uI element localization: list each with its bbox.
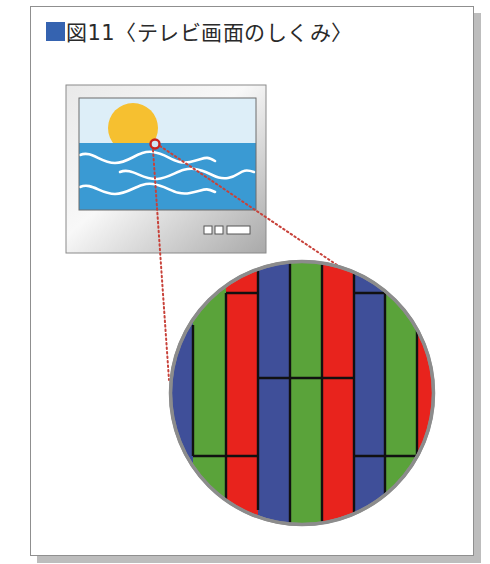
tv-set: [66, 85, 266, 253]
tv-screen: [79, 98, 256, 210]
tv-controls: [204, 226, 250, 234]
magnifier-circle: [160, 255, 447, 535]
focus-ring-icon: [151, 140, 160, 149]
tv-button-1: [204, 226, 212, 234]
tv-button-wide: [227, 226, 250, 234]
tv-button-2: [215, 226, 223, 234]
tv-diagram: [0, 0, 490, 564]
